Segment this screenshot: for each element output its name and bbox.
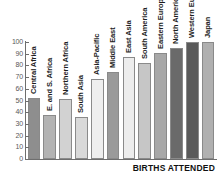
- bar-category-label: Northern Africa: [62, 42, 70, 95]
- y-axis-tick-label: 70: [3, 72, 23, 81]
- bar[interactable]: [107, 72, 120, 159]
- bar[interactable]: [138, 63, 151, 159]
- y-axis-tick-label: 100: [3, 37, 23, 46]
- y-axis-tick-mark: [25, 101, 29, 102]
- y-axis-tick-label: 30: [3, 119, 23, 128]
- bar[interactable]: [91, 79, 104, 159]
- bar[interactable]: [154, 53, 167, 159]
- y-axis-tick-label: 80: [3, 60, 23, 69]
- bar-category-label: Middle East: [109, 28, 117, 69]
- y-axis-tick-mark: [25, 136, 29, 137]
- y-axis-tick-label: 60: [3, 84, 23, 93]
- y-axis-tick-mark: [25, 65, 29, 66]
- bar-category-label: South America: [141, 8, 149, 59]
- bar[interactable]: [75, 117, 88, 159]
- bar-group[interactable]: Northern Africa: [59, 42, 72, 159]
- bar-category-label: Asia-Pacific: [93, 34, 101, 75]
- y-axis-tick-label: 10: [3, 142, 23, 151]
- y-axis-tick-mark: [25, 77, 29, 78]
- bar-group[interactable]: Eastern Europe: [154, 42, 167, 159]
- bar-group[interactable]: E. and S. Africa: [43, 42, 56, 159]
- bar-category-label: Central Africa: [30, 47, 38, 95]
- bar-category-label: E. and S. Africa: [46, 57, 54, 110]
- y-axis-tick-label: 50: [3, 96, 23, 105]
- y-axis-tick-label: 40: [3, 107, 23, 116]
- bar[interactable]: [59, 99, 72, 159]
- bar-group[interactable]: South America: [138, 42, 151, 159]
- bar[interactable]: [202, 42, 215, 159]
- bar[interactable]: [43, 115, 56, 159]
- bar-chart: Central AfricaE. and S. AfricaNorthern A…: [0, 0, 219, 175]
- bar[interactable]: [186, 42, 199, 159]
- bar-category-label: Japan: [204, 17, 212, 38]
- bar-group[interactable]: North Americ: [170, 42, 183, 159]
- bar-group[interactable]: Central Africa: [28, 42, 41, 159]
- bar-category-label: East Asia: [125, 21, 133, 54]
- bar[interactable]: [170, 48, 183, 159]
- y-axis-tick-mark: [25, 124, 29, 125]
- bar-category-label: Western Eur: [188, 0, 196, 38]
- plot-area: Central AfricaE. and S. AfricaNorthern A…: [26, 42, 216, 159]
- y-axis-tick-mark: [25, 89, 29, 90]
- y-axis-tick-mark: [25, 112, 29, 113]
- bar-group[interactable]: Asia-Pacific: [91, 42, 104, 159]
- bar-group[interactable]: Middle East: [107, 42, 120, 159]
- bar[interactable]: [123, 57, 136, 159]
- y-axis-tick-mark: [25, 42, 29, 43]
- bar-group[interactable]: Western Eur: [186, 42, 199, 159]
- y-axis-tick-mark: [25, 147, 29, 148]
- x-axis-title: BIRTHS ATTENDED: [133, 163, 215, 173]
- bar-group[interactable]: East Asia: [123, 42, 136, 159]
- bar-category-label: Eastern Europe: [157, 0, 165, 49]
- bar-group[interactable]: Japan: [202, 42, 215, 159]
- bar[interactable]: [28, 98, 41, 159]
- bar-category-label: South Asia: [77, 75, 85, 113]
- bar-group[interactable]: South Asia: [75, 42, 88, 159]
- y-axis-tick-label: 90: [3, 49, 23, 58]
- y-axis-tick-label: 0: [3, 154, 23, 163]
- y-axis-tick-label: 20: [3, 131, 23, 140]
- y-axis-tick-mark: [25, 159, 29, 160]
- bar-category-label: North Americ: [172, 0, 180, 44]
- x-axis-line: [25, 159, 217, 160]
- y-axis-tick-mark: [25, 54, 29, 55]
